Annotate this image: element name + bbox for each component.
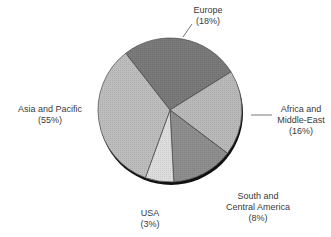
label-asia-name: Asia and Pacific [8,104,92,115]
pie-slices [98,38,242,182]
label-usa-value: (3%) [132,219,168,230]
label-europe-value: (18%) [186,16,230,27]
label-asia-value: (55%) [8,115,92,126]
label-sca-value: (8%) [218,213,298,224]
label-europe-name: Europe [186,5,230,16]
label-asia-pacific: Asia and Pacific (55%) [8,104,92,126]
label-usa: USA (3%) [132,208,168,230]
label-africa-name-1: Africa and [272,104,330,115]
label-africa-value: (16%) [272,126,330,137]
label-south-central-america: South and Central America (8%) [218,191,298,224]
label-usa-name: USA [132,208,168,219]
label-europe: Europe (18%) [186,5,230,27]
label-africa-middle-east: Africa and Middle-East (16%) [272,104,330,137]
label-africa-name-2: Middle-East [272,115,330,126]
label-sca-name-2: Central America [218,202,298,213]
label-sca-name-1: South and [218,191,298,202]
